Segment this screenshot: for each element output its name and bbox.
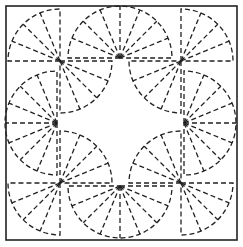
- fan-sectors: [5, 6, 236, 238]
- fan-sector-bottom: [68, 186, 172, 238]
- fan-sector-bl-a: [8, 183, 60, 235]
- fan-sector-right: [184, 71, 236, 175]
- fan-sector-top: [68, 6, 172, 58]
- fan-sector-br-a: [181, 183, 233, 235]
- fan-sector-br-b: [129, 131, 181, 183]
- fan-sector-tr-a: [181, 9, 233, 61]
- fan-sector-tr-b: [129, 61, 181, 113]
- fan-pattern-diagram: [0, 0, 243, 247]
- fan-sector-tl-a: [8, 9, 60, 61]
- fan-sector-bl-b: [60, 131, 112, 183]
- fan-sector-left: [5, 71, 57, 175]
- fan-sector-tl-b: [60, 61, 112, 113]
